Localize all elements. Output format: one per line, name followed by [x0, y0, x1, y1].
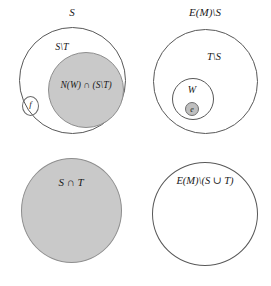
label-s-minus-t: S\T: [55, 42, 68, 52]
label-em-minus-s: E(M)\S: [189, 7, 221, 18]
label-em-minus-s-union-t: E(M)\(S ∪ T): [176, 176, 233, 187]
panel-bottom-left: S ∩ T: [0, 143, 135, 286]
label-nw-intersect-s-minus-t: N(W) ∩ (S\T): [60, 81, 111, 91]
circle-s-intersect-t: [21, 158, 122, 263]
label-set-s: S: [69, 7, 75, 18]
set-diagram-figure: S S\T N(W) ∩ (S\T) f E(M)\S T\S W e S ∩ …: [0, 0, 271, 286]
label-t-minus-s: T\S: [207, 52, 221, 63]
label-w: W: [188, 85, 196, 95]
panel-top-left: S S\T N(W) ∩ (S\T) f: [0, 0, 135, 143]
label-f: f: [29, 100, 32, 109]
panel-bottom-right: E(M)\(S ∪ T): [135, 143, 271, 286]
label-e: e: [190, 106, 194, 114]
label-s-intersect-t: S ∩ T: [58, 177, 83, 188]
